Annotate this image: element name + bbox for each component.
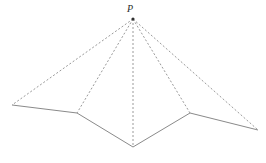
solid-polyline-base bbox=[12, 105, 258, 147]
apex-point-p bbox=[131, 17, 134, 20]
dashed-edge-p-to-v1 bbox=[12, 19, 133, 105]
apex-label-p: P bbox=[126, 3, 133, 14]
geometry-figure-canvas: P bbox=[0, 0, 266, 163]
dashed-edge-group bbox=[12, 19, 258, 147]
dashed-edge-p-to-v2 bbox=[77, 19, 133, 113]
dashed-edge-p-to-v5 bbox=[133, 19, 258, 130]
geometry-figure-container: P bbox=[0, 0, 266, 163]
dashed-edge-p-to-v4 bbox=[133, 19, 190, 113]
